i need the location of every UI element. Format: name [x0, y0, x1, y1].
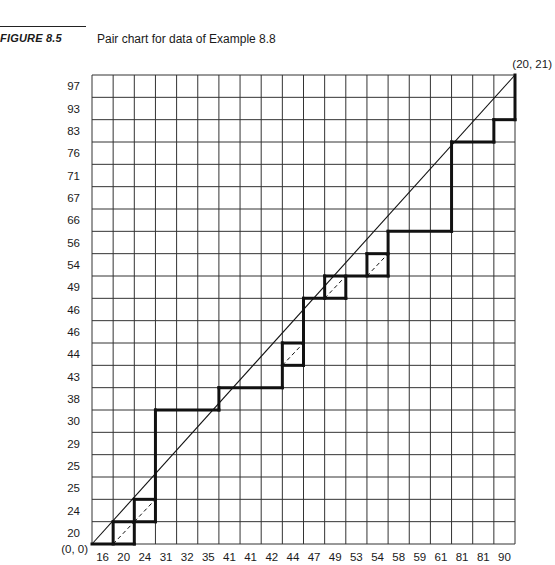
- tie-diagonal-segment: [282, 343, 303, 365]
- x-tick-label: 61: [435, 551, 448, 563]
- x-tick-label: 41: [244, 551, 257, 563]
- y-tick-label: 71: [67, 170, 80, 182]
- x-tick-label: 20: [117, 551, 130, 563]
- x-tick-label: 90: [498, 551, 511, 563]
- y-tick-label: 24: [67, 505, 80, 517]
- x-tick-label: 59: [413, 551, 426, 563]
- x-tick-label: 42: [265, 551, 278, 563]
- y-tick-label: 29: [67, 438, 80, 450]
- y-tick-label: 97: [67, 80, 80, 92]
- x-tick-label: 81: [477, 551, 490, 563]
- y-tick-label: 49: [67, 281, 80, 293]
- end-label: (20, 21): [512, 58, 552, 70]
- y-tick-label: 67: [67, 192, 80, 204]
- y-axis-labels: 2024252529303843444646495456666771768393…: [67, 80, 80, 539]
- y-tick-label: 25: [67, 460, 80, 472]
- y-tick-label: 46: [67, 304, 80, 316]
- x-tick-label: 16: [96, 551, 109, 563]
- x-tick-label: 58: [392, 551, 405, 563]
- y-tick-label: 66: [67, 214, 80, 226]
- y-tick-label: 54: [67, 259, 80, 271]
- x-tick-label: 32: [181, 551, 194, 563]
- y-tick-label: 30: [67, 415, 80, 427]
- x-tick-label: 44: [287, 551, 300, 563]
- x-axis-labels: 1620243132354141424447495354585961818190: [96, 551, 511, 563]
- y-tick-label: 56: [67, 237, 80, 249]
- y-tick-label: 25: [67, 482, 80, 494]
- tie-diagonal-segment: [325, 276, 346, 298]
- y-tick-label: 43: [67, 371, 80, 383]
- x-tick-label: 81: [456, 551, 469, 563]
- y-tick-label: 38: [67, 393, 80, 405]
- y-tick-label: 93: [67, 103, 80, 115]
- x-tick-label: 54: [371, 551, 384, 563]
- x-tick-label: 41: [223, 551, 236, 563]
- x-tick-label: 47: [308, 551, 321, 563]
- pair-chart: 2024252529303843444646495456666771768393…: [0, 0, 555, 565]
- tie-diagonal-segment: [113, 522, 134, 544]
- x-tick-label: 24: [138, 551, 151, 563]
- y-tick-label: 20: [67, 527, 80, 539]
- x-tick-label: 49: [329, 551, 342, 563]
- tie-diagonal-segment: [367, 254, 388, 276]
- y-tick-label: 46: [67, 326, 80, 338]
- x-tick-label: 31: [160, 551, 173, 563]
- origin-label: (0, 0): [61, 543, 88, 555]
- y-tick-label: 83: [67, 125, 80, 137]
- y-tick-label: 76: [67, 147, 80, 159]
- x-tick-label: 35: [202, 551, 215, 563]
- tie-diagonal-segment: [134, 499, 155, 521]
- x-tick-label: 53: [350, 551, 363, 563]
- y-tick-label: 44: [67, 348, 80, 360]
